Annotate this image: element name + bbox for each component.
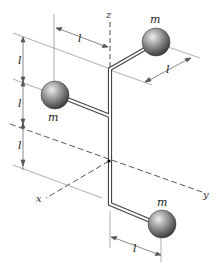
vertical-dimension [21,37,25,170]
mass-label-top-right: m [150,13,160,26]
dimension-label-l-3: l [18,139,22,152]
sphere-icon [41,81,69,109]
y-axis-label: y [202,189,209,200]
sphere-icon [142,28,170,56]
dimension-label-l-bottom: l [133,242,137,255]
mass-bottom-right [148,210,176,238]
top-horizontal-dimension [56,28,108,48]
origin-point [107,159,110,162]
dimension-label-l-arm: l [166,63,170,76]
bent-rod [62,46,158,224]
y-axis [10,124,202,192]
mass-middle-left [41,81,69,109]
x-axis-label: x [36,193,42,204]
x-axis [46,161,109,198]
mass-top-right [142,28,170,56]
dimension-label-l-1: l [18,54,22,67]
sphere-icon [148,210,176,238]
mass-label-middle-left: m [48,111,58,124]
bent-rod-diagram: z y x l l l l [0,0,218,280]
dimension-label-l-2: l [18,97,22,110]
z-axis-label: z [105,9,112,20]
dimension-label-l-top: l [78,32,82,45]
mass-label-bottom-right: m [157,196,167,209]
